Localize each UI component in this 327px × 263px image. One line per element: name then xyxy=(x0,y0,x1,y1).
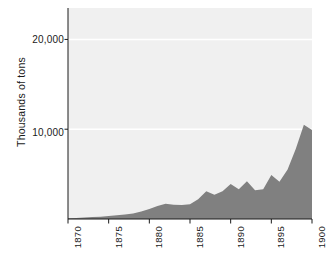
x-axis-tickmarks xyxy=(68,219,312,224)
gridlines xyxy=(68,39,312,129)
x-tick-label-1895: 1895 xyxy=(275,226,286,248)
x-tick-label-1885: 1885 xyxy=(194,226,205,248)
plot-area xyxy=(68,8,312,219)
y-axis-title: Thousands of tons xyxy=(15,37,27,167)
plot-canvas xyxy=(68,8,312,219)
x-tick-label-1880: 1880 xyxy=(153,226,164,248)
x-tick-label-1890: 1890 xyxy=(235,226,246,248)
x-tick-label-1875: 1875 xyxy=(113,226,124,248)
x-tick-label-1870: 1870 xyxy=(72,226,83,248)
data-series-area xyxy=(68,125,312,219)
x-tick-label-1900: 1900 xyxy=(316,226,327,248)
